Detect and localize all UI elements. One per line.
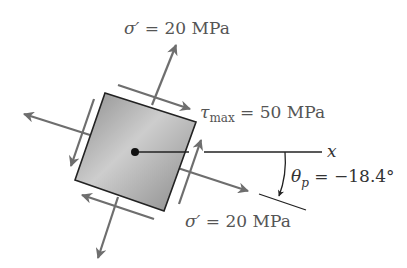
label-normal-top: σ′ = 20 MPa [124, 18, 230, 38]
angle-arc [279, 152, 285, 196]
principal-axis-line [259, 194, 306, 210]
center-point [131, 148, 139, 156]
label-angle: θp = −18.4° [291, 166, 395, 190]
label-x-axis: x [327, 141, 337, 161]
label-shear: τmax = 50 MPa [200, 102, 325, 125]
stress-element-diagram: σ′ = 20 MPa τmax = 50 MPa x θp = −18.4° … [0, 0, 407, 268]
normal-arrow-left [24, 114, 90, 135]
normal-arrow-up [152, 45, 176, 105]
label-normal-bottom: σ′ = 20 MPa [185, 211, 291, 231]
